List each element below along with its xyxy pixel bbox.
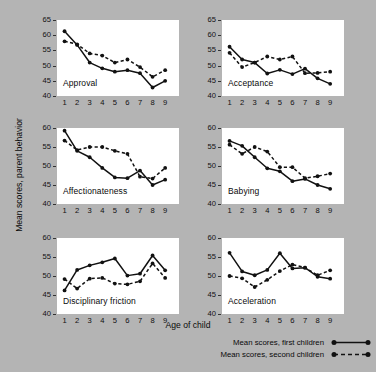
- data-point: [316, 273, 320, 277]
- data-point: [100, 145, 104, 149]
- x-tick-label: 3: [85, 207, 94, 215]
- y-tick-mark: [218, 20, 221, 21]
- y-tick-mark: [218, 50, 221, 51]
- data-point: [100, 54, 104, 58]
- data-point: [291, 179, 295, 183]
- x-tick-label: 9: [161, 317, 170, 325]
- data-point: [151, 183, 155, 187]
- x-tick-label: 8: [148, 207, 157, 215]
- x-tick-label: 6: [288, 317, 297, 325]
- x-tick-label: 7: [136, 207, 145, 215]
- data-point: [113, 61, 117, 65]
- series-mean-scores-first-children: [228, 139, 332, 191]
- series-mean-scores-second-children: [228, 143, 332, 180]
- x-tick-label: 9: [326, 99, 335, 107]
- x-tick-label: 9: [161, 207, 170, 215]
- y-tick-mark: [53, 66, 56, 67]
- y-tick-label: 45: [201, 181, 216, 189]
- y-tick-mark: [218, 166, 221, 167]
- data-point: [63, 139, 67, 143]
- data-point: [151, 86, 155, 90]
- x-tick-label: 6: [288, 99, 297, 107]
- data-point: [316, 174, 320, 178]
- data-point: [88, 52, 92, 56]
- data-point: [63, 129, 67, 133]
- y-tick-label: 40: [36, 310, 51, 318]
- legend-label-first-children: Mean scores, first children: [233, 338, 324, 347]
- y-tick-label: 55: [201, 46, 216, 54]
- y-tick-label: 65: [36, 16, 51, 24]
- data-point: [63, 29, 67, 33]
- y-tick-mark: [218, 185, 221, 186]
- data-point: [100, 166, 104, 170]
- data-point: [138, 169, 142, 173]
- data-point: [113, 282, 117, 286]
- data-point: [228, 274, 232, 278]
- y-tick-mark: [53, 81, 56, 82]
- y-tick-mark: [218, 35, 221, 36]
- y-tick-label: 60: [36, 234, 51, 242]
- data-point: [228, 139, 232, 143]
- legend-swatch-solid: [330, 338, 372, 347]
- data-point: [278, 169, 282, 173]
- data-point: [240, 58, 244, 62]
- data-point: [88, 263, 92, 267]
- x-tick-label: 4: [263, 99, 272, 107]
- x-tick-label: 6: [123, 207, 132, 215]
- y-tick-mark: [53, 20, 56, 21]
- y-tick-mark: [218, 147, 221, 148]
- x-tick-label: 2: [73, 317, 82, 325]
- data-point: [265, 55, 269, 59]
- y-tick-label: 40: [201, 310, 216, 318]
- x-tick-label: 2: [73, 99, 82, 107]
- data-point: [75, 287, 79, 291]
- x-tick-label: 7: [136, 99, 145, 107]
- data-point: [240, 152, 244, 156]
- x-tick-label: 1: [225, 317, 234, 325]
- panel-title-affectionateness: Affectionateness: [63, 186, 127, 196]
- x-tick-label: 7: [136, 317, 145, 325]
- data-point: [151, 262, 155, 266]
- data-point: [278, 251, 282, 255]
- data-point: [278, 58, 282, 62]
- y-tick-label: 50: [201, 162, 216, 170]
- x-tick-label: 3: [85, 317, 94, 325]
- y-tick-mark: [53, 295, 56, 296]
- y-tick-label: 60: [36, 124, 51, 132]
- data-point: [240, 65, 244, 69]
- data-point: [88, 145, 92, 149]
- data-point: [151, 254, 155, 258]
- x-tick-label: 5: [110, 317, 119, 325]
- data-point: [151, 177, 155, 181]
- data-point: [265, 268, 269, 272]
- x-tick-label: 2: [238, 317, 247, 325]
- data-point: [163, 178, 167, 182]
- y-tick-label: 40: [201, 200, 216, 208]
- series-mean-scores-second-children: [63, 139, 167, 181]
- x-tick-label: 6: [288, 207, 297, 215]
- data-point: [138, 175, 142, 179]
- x-tick-label: 1: [225, 207, 234, 215]
- data-point: [126, 274, 130, 278]
- data-point: [291, 165, 295, 169]
- data-point: [316, 71, 320, 75]
- data-point: [138, 65, 142, 69]
- data-point: [253, 273, 257, 277]
- data-point: [88, 61, 92, 65]
- y-tick-mark: [53, 50, 56, 51]
- panel-title-disciplinary-friction: Disciplinary friction: [63, 296, 136, 306]
- data-point: [163, 268, 167, 272]
- x-tick-label: 7: [301, 207, 310, 215]
- x-tick-label: 8: [148, 317, 157, 325]
- data-point: [278, 165, 282, 169]
- data-point: [88, 155, 92, 159]
- data-point: [316, 76, 320, 80]
- data-point: [126, 68, 130, 72]
- x-tick-label: 4: [98, 99, 107, 107]
- x-tick-label: 1: [60, 317, 69, 325]
- legend-label-second-children: Mean scores, second children: [220, 350, 324, 359]
- data-point: [63, 277, 67, 281]
- data-point: [228, 251, 232, 255]
- panel-title-acceptance: Acceptance: [228, 78, 273, 88]
- x-tick-label: 5: [275, 99, 284, 107]
